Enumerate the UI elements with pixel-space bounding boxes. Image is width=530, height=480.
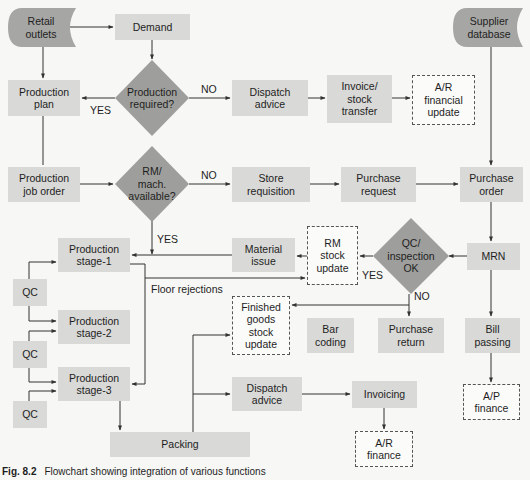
rm-stock-update: RM stock update [307, 226, 358, 285]
edge-label-no-rm: NO [201, 169, 217, 181]
purchase-order: Purchase order [460, 167, 523, 202]
material-issue: Material issue [232, 238, 295, 272]
qc-box-1: QC [13, 279, 47, 306]
purchase-return: Purchase return [378, 318, 444, 353]
invoicing: Invoicing [352, 381, 417, 408]
retail-outlets: Retail outlets [10, 8, 72, 47]
demand: Demand [115, 14, 190, 40]
edge-label-no-qc: NO [414, 290, 430, 302]
dispatch-advice-top: Dispatch advice [232, 80, 308, 116]
dispatch-advice-bottom: Dispatch advice [232, 377, 302, 411]
qc-box-3: QC [13, 401, 47, 428]
mrn: MRN [467, 243, 520, 270]
production-job-order: Production job order [8, 167, 80, 202]
production-plan: Production plan [8, 80, 80, 116]
purchase-request: Purchase request [341, 167, 416, 202]
edge-label-yes-qc: YES [362, 269, 383, 281]
bar-coding: Bar coding [307, 318, 354, 353]
qc-box-2: QC [13, 341, 47, 368]
figure-caption-text: Flowchart showing integration of various… [44, 466, 265, 477]
production-stage-2: Production stage-2 [58, 310, 130, 344]
ap-finance: A/P finance [463, 384, 520, 420]
edge-label-no-production: NO [201, 83, 217, 95]
edge-label-yes-rm: YES [157, 233, 178, 245]
ar-finance: A/R finance [355, 431, 413, 467]
ar-financial-update: A/R financial update [412, 75, 475, 125]
production-required-label: Production required? [117, 80, 187, 116]
edge-label-floor-rejections: Floor rejections [151, 283, 223, 295]
edge-label-yes-production: YES [90, 104, 111, 116]
packing: Packing [110, 432, 250, 457]
supplier-database: Supplier database [456, 8, 522, 47]
finished-goods-stock-update: Finished goods stock update [232, 296, 290, 355]
qc-inspection-ok-label: QC/ inspection OK [375, 236, 447, 276]
store-requisition: Store requisition [232, 167, 310, 202]
invoice-stock-transfer: Invoice/ stock transfer [327, 75, 392, 123]
rm-mach-available-label: RM/ mach. available? [117, 164, 187, 204]
production-stage-1: Production stage-1 [58, 238, 130, 272]
figure-caption: Fig. 8.2Flowchart showing integration of… [2, 466, 266, 477]
figure-number: Fig. 8.2 [2, 466, 36, 477]
bill-passing: Bill passing [465, 318, 520, 353]
production-stage-3: Production stage-3 [58, 367, 130, 401]
